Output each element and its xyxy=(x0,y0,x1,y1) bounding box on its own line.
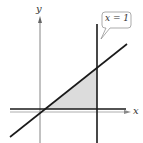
callout-label: x = 1 xyxy=(104,13,130,23)
x-axis-label: x xyxy=(133,105,139,116)
y-axis-arrow-icon xyxy=(38,16,42,23)
x-axis-arrow-icon xyxy=(124,110,131,114)
y-axis-label: y xyxy=(36,3,42,14)
diagonal-line xyxy=(10,44,127,137)
